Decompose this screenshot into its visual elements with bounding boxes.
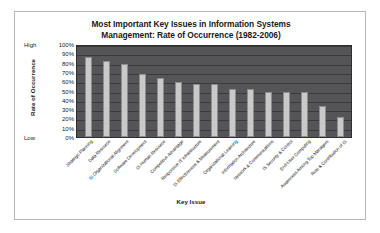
chart-title-line-1: Most Important Key Issues in Information…: [15, 19, 367, 30]
bar: [157, 78, 164, 137]
y-axis-tick-label: 70%: [41, 70, 74, 76]
bar: [139, 74, 146, 137]
bar: [193, 84, 200, 137]
y-axis-tick-label: 30%: [41, 107, 74, 113]
x-axis-category-label: Software Development: [113, 139, 148, 174]
bar: [301, 92, 308, 138]
bar: [247, 89, 254, 137]
bar: [103, 61, 110, 137]
bar: [211, 84, 218, 137]
x-axis-title: Key Issue: [15, 198, 367, 205]
y-axis-tick-label: 10%: [41, 126, 74, 132]
bar: [337, 117, 344, 137]
y-axis-scale: 100%90%80%70%60%50%40%30%20%10%0%: [41, 45, 74, 138]
chart-frame: Most Important Key Issues in Information…: [14, 11, 366, 220]
plot-area: [76, 45, 352, 138]
y-axis-tick-label: 0%: [41, 135, 74, 141]
y-axis-low-label: Low: [24, 135, 40, 141]
y-axis-tick-label: 50%: [41, 89, 74, 95]
y-axis-tick-label: 80%: [41, 61, 74, 67]
y-axis-tick-label: 100%: [41, 42, 74, 48]
y-axis-tick-label: 20%: [41, 116, 74, 122]
bar: [175, 82, 182, 138]
x-axis-category-label: Competitive Advantage: [149, 139, 184, 174]
y-axis-high-label: High: [24, 42, 40, 48]
x-axis-category-label: Strategic Planning: [65, 139, 94, 168]
y-axis-tick-label: 60%: [41, 79, 74, 85]
y-axis-tick-label: 40%: [41, 98, 74, 104]
bar: [265, 92, 272, 138]
bar: [85, 57, 92, 137]
bar: [319, 106, 326, 137]
bar: [229, 89, 236, 137]
chart-title: Most Important Key Issues in Information…: [15, 19, 367, 40]
chart-title-line-2: Management: Rate of Occurrence (1982-200…: [15, 30, 367, 41]
y-axis-tick-label: 90%: [41, 51, 74, 57]
bar: [121, 64, 128, 137]
bar: [283, 92, 290, 138]
bar-series: [77, 46, 351, 137]
x-axis-category-label: Role & Contribution of IS: [310, 139, 348, 177]
x-axis-category-labels: Strategic PlanningData ResourceIS Organi…: [76, 139, 352, 201]
